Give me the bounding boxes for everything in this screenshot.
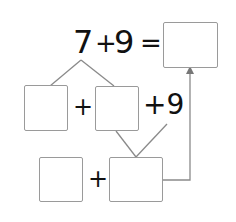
operand-9: 9 bbox=[114, 26, 134, 58]
equals-sign: = bbox=[140, 30, 162, 56]
decompose-box-1[interactable] bbox=[24, 85, 68, 131]
branch-line-right bbox=[81, 60, 114, 86]
decompose-box-2[interactable] bbox=[95, 86, 139, 131]
number-bond-diagram: 7 + 9 = + +9 + bbox=[0, 0, 236, 222]
plus-nine-label: +9 bbox=[143, 91, 184, 119]
combine-box-1[interactable] bbox=[39, 157, 83, 202]
sum-box[interactable] bbox=[109, 157, 163, 202]
combine-plus-sign: + bbox=[88, 167, 108, 191]
merge-line-left bbox=[116, 131, 136, 157]
branch-line-left bbox=[50, 60, 81, 86]
operand-7: 7 bbox=[73, 26, 93, 58]
merge-line-right bbox=[136, 124, 167, 157]
decompose-plus-sign: + bbox=[73, 95, 93, 119]
answer-box[interactable] bbox=[163, 22, 218, 68]
